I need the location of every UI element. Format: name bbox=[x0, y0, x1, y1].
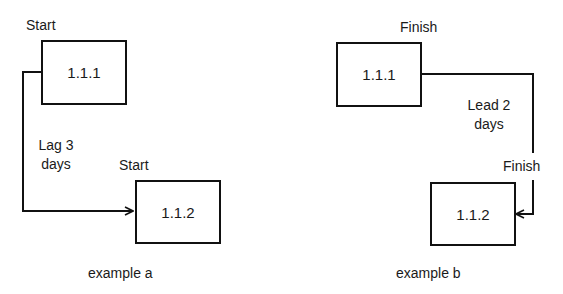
task-box-a-1-1-1: 1.1.1 bbox=[41, 40, 127, 105]
start-label-a1: Start bbox=[26, 17, 56, 34]
task-id: 1.1.1 bbox=[362, 66, 395, 83]
finish-label-b1: Finish bbox=[400, 19, 437, 36]
task-box-a-1-1-2: 1.1.2 bbox=[135, 180, 221, 244]
start-label-a2: Start bbox=[119, 157, 149, 174]
task-id: 1.1.1 bbox=[67, 64, 100, 81]
task-id: 1.1.2 bbox=[161, 204, 194, 221]
lead-label: Lead 2 days bbox=[462, 96, 516, 134]
task-id: 1.1.2 bbox=[456, 206, 489, 223]
finish-label-b2: Finish bbox=[503, 158, 540, 175]
task-box-b-1-1-2: 1.1.2 bbox=[430, 182, 516, 246]
caption-example-b: example b bbox=[396, 265, 461, 282]
lag-label: Lag 3 days bbox=[32, 136, 80, 174]
ff-connector-b-bottom bbox=[516, 180, 533, 214]
caption-example-a: example a bbox=[88, 265, 153, 282]
task-box-b-1-1-1: 1.1.1 bbox=[336, 42, 422, 107]
